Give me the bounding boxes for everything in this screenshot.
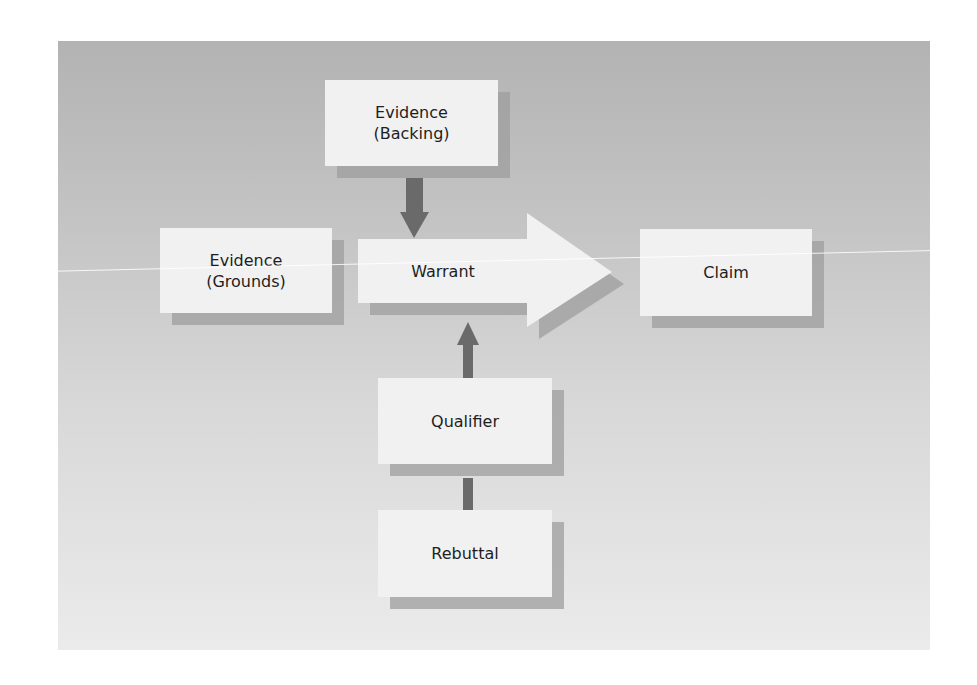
warrant-node: Warrant — [358, 239, 528, 303]
rebuttal-to-qualifier-connector — [463, 478, 473, 510]
arrows-layer — [0, 0, 977, 685]
warrant-label: Warrant — [411, 261, 475, 282]
qualifier-to-warrant-arrow-icon — [457, 322, 479, 378]
backing-to-warrant-arrow-icon — [400, 178, 429, 238]
